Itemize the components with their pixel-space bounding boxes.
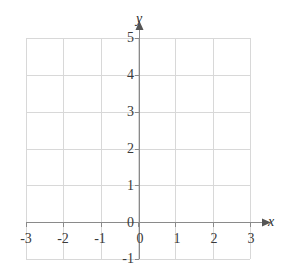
tick-label-layer: x y -3 -2 -1 0 1 2 3 5 4 3 2 1 0 -1 bbox=[0, 0, 284, 276]
x-tick-label-0: 0 bbox=[132, 232, 148, 246]
x-tick-label-neg3: -3 bbox=[18, 232, 34, 246]
coordinate-plane-figure: x y -3 -2 -1 0 1 2 3 5 4 3 2 1 0 -1 bbox=[0, 0, 284, 276]
x-tick-label-neg1: -1 bbox=[92, 232, 108, 246]
x-axis-label: x bbox=[268, 215, 274, 229]
y-axis-label: y bbox=[136, 12, 142, 26]
y-tick-label-2: 2 bbox=[118, 142, 134, 156]
y-tick-label-neg1: -1 bbox=[112, 252, 134, 266]
y-tick-label-1: 1 bbox=[118, 179, 134, 193]
y-tick-label-5: 5 bbox=[118, 31, 134, 45]
y-tick-label-0: 0 bbox=[118, 216, 134, 230]
x-tick-label-2: 2 bbox=[206, 232, 222, 246]
x-tick-label-3: 3 bbox=[243, 232, 259, 246]
x-tick-label-neg2: -2 bbox=[55, 232, 71, 246]
y-tick-label-4: 4 bbox=[118, 68, 134, 82]
y-tick-label-3: 3 bbox=[118, 105, 134, 119]
x-tick-label-1: 1 bbox=[169, 232, 185, 246]
